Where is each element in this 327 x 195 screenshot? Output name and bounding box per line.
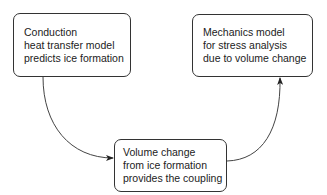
node-conduction-model: Conduction heat transfer model predicts … [13, 13, 131, 77]
node-mechanics-model: Mechanics model for stress analysis due … [192, 14, 313, 77]
node-line: predicts ice formation [24, 52, 130, 65]
arrow-conduction-to-coupling [43, 77, 113, 158]
node-line: Mechanics model [203, 26, 312, 39]
node-line: from ice formation [123, 159, 226, 172]
node-line: due to volume change [203, 52, 312, 65]
node-line: provides the coupling [123, 172, 226, 185]
node-volume-change-coupling: Volume change from ice formation provide… [114, 139, 227, 192]
arrow-coupling-to-mechanics [227, 78, 280, 161]
node-line: Volume change [123, 146, 226, 159]
node-line: for stress analysis [203, 39, 312, 52]
node-line: heat transfer model [24, 39, 130, 52]
node-line: Conduction [24, 26, 130, 39]
